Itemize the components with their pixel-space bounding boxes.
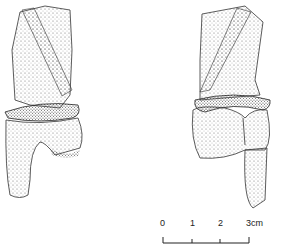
figurine-back-view — [145, 0, 290, 220]
scale-bar: 0 1 2 3cm — [150, 215, 290, 249]
figurine-front-view — [0, 0, 145, 220]
scale-ruler — [150, 215, 290, 249]
